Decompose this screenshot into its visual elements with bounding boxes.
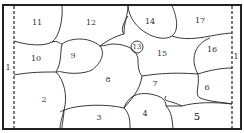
region-label: 9 — [70, 51, 75, 60]
region-label: 10 — [31, 54, 41, 63]
region-label: 13 — [133, 43, 142, 51]
region-label: 6 — [204, 83, 209, 92]
region-diagram: 11 12 14 17 10 9 13 15 16 8 7 6 2 3 4 5 … — [0, 0, 244, 133]
region-label: 17 — [195, 16, 205, 25]
region-label: 8 — [105, 75, 110, 84]
side-label-right: 1 — [233, 52, 238, 61]
region-label: 7 — [152, 79, 157, 88]
region-label: 16 — [207, 45, 217, 54]
region-label: 11 — [32, 18, 42, 27]
region-label: 3 — [96, 113, 101, 122]
region-labels: 11 12 14 17 10 9 13 15 16 8 7 6 2 3 4 5 … — [5, 16, 238, 122]
region-label: 15 — [157, 49, 167, 58]
region-label: 2 — [41, 95, 46, 104]
region-label: 5 — [194, 111, 200, 122]
side-label-left: 1 — [5, 63, 10, 72]
region-label: 12 — [86, 18, 96, 27]
region-label: 4 — [142, 109, 147, 118]
region-label: 14 — [145, 17, 155, 26]
